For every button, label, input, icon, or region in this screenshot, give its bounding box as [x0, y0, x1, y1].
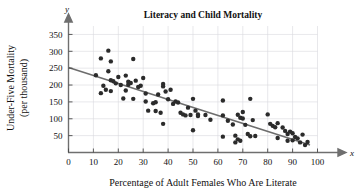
- data-point: [153, 100, 157, 104]
- literacy-child-mortality-scatter-plot: 0102030405060708090100 50100150200250300…: [0, 0, 361, 192]
- data-point: [208, 118, 212, 122]
- x-tick-label: 100: [311, 157, 325, 167]
- data-point: [166, 97, 170, 101]
- data-point: [238, 138, 242, 142]
- data-point: [104, 88, 108, 92]
- data-point: [295, 136, 299, 140]
- data-point: [188, 113, 192, 117]
- data-point: [290, 131, 294, 135]
- data-point: [146, 108, 150, 112]
- data-point: [158, 110, 162, 114]
- data-point: [203, 113, 207, 117]
- data-point: [106, 48, 110, 52]
- data-point: [131, 97, 135, 101]
- data-point: [176, 100, 180, 104]
- data-point: [266, 112, 270, 116]
- x-tick-label: 70: [238, 157, 248, 167]
- data-point: [161, 84, 165, 88]
- y-axis-caption-line-1: Under-Five Mortality: [5, 45, 16, 131]
- data-point: [191, 128, 195, 132]
- data-point: [168, 88, 172, 92]
- x-tick-label: 90: [288, 157, 298, 167]
- data-point: [186, 105, 190, 109]
- x-tick-labels-group: 0102030405060708090100: [66, 157, 325, 167]
- y-axis-caption-line-2: (per thousand): [18, 59, 30, 117]
- y-axis-arrow: [65, 14, 72, 22]
- data-point: [231, 122, 235, 126]
- y-tick-label: 50: [54, 131, 64, 141]
- data-point: [114, 81, 118, 85]
- data-point: [161, 122, 165, 126]
- chart-title: Literacy and Child Mortality: [144, 10, 263, 20]
- data-point: [139, 84, 143, 88]
- y-axis-symbol-label: y: [64, 4, 69, 14]
- data-point: [191, 97, 195, 101]
- data-point: [124, 88, 128, 92]
- data-point: [221, 134, 225, 138]
- x-tick-label: 10: [89, 157, 99, 167]
- y-tick-labels-group: 50100150200250300350: [49, 30, 63, 141]
- data-points-group: [94, 48, 310, 147]
- y-tick-label: 150: [49, 97, 63, 107]
- x-tick-label: 40: [164, 157, 174, 167]
- data-point: [241, 110, 245, 114]
- data-point: [156, 92, 160, 96]
- data-point: [94, 73, 98, 77]
- data-point: [101, 84, 105, 88]
- x-tick-label: 60: [213, 157, 223, 167]
- x-tick-label: 50: [189, 157, 199, 167]
- y-tick-label: 200: [49, 80, 63, 90]
- data-point: [109, 89, 113, 93]
- data-point: [124, 73, 128, 77]
- data-point: [153, 109, 157, 113]
- x-axis-symbol-label: x: [349, 148, 354, 158]
- y-tick-label: 250: [49, 63, 63, 73]
- data-point: [99, 91, 103, 95]
- chart-figure: 0102030405060708090100 50100150200250300…: [0, 0, 361, 192]
- data-point: [143, 99, 147, 103]
- data-point: [106, 69, 110, 73]
- data-point: [141, 76, 145, 80]
- data-point: [109, 59, 113, 63]
- data-point: [119, 83, 123, 87]
- x-tick-label: 80: [263, 157, 273, 167]
- data-point: [134, 78, 138, 82]
- data-point: [243, 123, 247, 127]
- data-point: [193, 108, 197, 112]
- data-point: [253, 134, 257, 138]
- data-point: [131, 57, 135, 61]
- data-point: [99, 56, 103, 60]
- data-point: [221, 113, 225, 117]
- data-point: [116, 75, 120, 79]
- data-point: [275, 121, 279, 125]
- x-axis-arrow: [338, 149, 346, 156]
- data-point: [298, 140, 302, 144]
- data-point: [183, 113, 187, 117]
- data-point: [300, 132, 304, 136]
- data-point: [143, 91, 147, 95]
- data-point: [226, 119, 230, 123]
- data-point: [129, 81, 133, 85]
- x-tick-label: 0: [66, 157, 71, 167]
- data-point: [221, 98, 225, 102]
- x-tick-label: 20: [114, 157, 124, 167]
- data-point: [305, 140, 309, 144]
- data-point: [196, 114, 200, 118]
- data-point: [121, 96, 125, 100]
- data-point: [233, 133, 237, 137]
- data-point: [251, 118, 255, 122]
- x-tick-label: 30: [139, 157, 149, 167]
- x-axis-caption: Percentage of Adult Females Who Are Lite…: [109, 177, 297, 188]
- y-tick-label: 300: [49, 47, 63, 57]
- data-point: [241, 116, 245, 120]
- data-point: [275, 136, 279, 140]
- data-point: [273, 125, 277, 129]
- y-tick-label: 350: [49, 30, 63, 40]
- data-point: [163, 89, 167, 93]
- y-tick-label: 100: [49, 114, 63, 124]
- data-point: [248, 134, 252, 138]
- data-point: [285, 138, 289, 142]
- data-point: [248, 97, 252, 101]
